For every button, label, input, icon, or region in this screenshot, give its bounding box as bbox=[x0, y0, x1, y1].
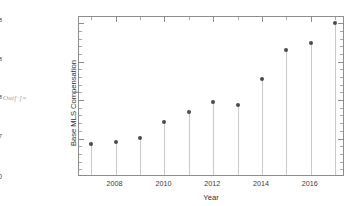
stem-line bbox=[213, 102, 214, 175]
plot-area bbox=[79, 17, 343, 175]
out-prompt-label: Out[·]= bbox=[3, 94, 27, 102]
x-tick-minor-top bbox=[189, 17, 190, 20]
y-tick-major bbox=[79, 62, 84, 63]
stem-line bbox=[335, 23, 336, 175]
y-tick-minor-right bbox=[340, 123, 343, 124]
y-tick-minor bbox=[79, 146, 82, 147]
y-tick-major-right bbox=[338, 23, 343, 24]
y-tick-minor-right bbox=[340, 31, 343, 32]
y-tick-minor-right bbox=[340, 39, 343, 40]
data-point[interactable] bbox=[162, 120, 166, 124]
y-tick-minor bbox=[79, 169, 82, 170]
y-tick-major bbox=[79, 100, 84, 101]
stem-line bbox=[262, 79, 263, 175]
y-tick-minor bbox=[79, 69, 82, 70]
y-tick-minor-right bbox=[340, 92, 343, 93]
data-point[interactable] bbox=[187, 110, 191, 114]
data-point[interactable] bbox=[333, 21, 337, 25]
data-point[interactable] bbox=[114, 140, 118, 144]
x-tick-label: 2012 bbox=[204, 179, 220, 188]
x-tick-major-top bbox=[213, 17, 214, 22]
y-tick-minor bbox=[79, 39, 82, 40]
notebook-output-cell: Out[·]= Base MLS Compensation 05.0 × 107… bbox=[0, 0, 351, 206]
y-tick-minor bbox=[79, 46, 82, 47]
y-tick-label: 2.0 × 108 bbox=[0, 17, 2, 27]
y-tick-minor bbox=[79, 92, 82, 93]
stem-line bbox=[164, 122, 165, 175]
y-tick-minor-right bbox=[340, 162, 343, 163]
stem-line bbox=[189, 112, 190, 175]
stem-line bbox=[140, 138, 141, 175]
stem-line bbox=[311, 43, 312, 175]
y-tick-minor bbox=[79, 162, 82, 163]
y-tick-major-right bbox=[338, 62, 343, 63]
stem-line bbox=[116, 142, 117, 175]
x-tick-label: 2010 bbox=[155, 179, 171, 188]
x-tick-major-top bbox=[164, 17, 165, 22]
data-point[interactable] bbox=[284, 48, 288, 52]
y-tick-minor-right bbox=[340, 69, 343, 70]
stem-line bbox=[238, 105, 239, 175]
x-tick-major-top bbox=[311, 17, 312, 22]
data-point[interactable] bbox=[89, 142, 93, 146]
data-point[interactable] bbox=[309, 41, 313, 45]
y-tick-label: 1.5 × 108 bbox=[0, 55, 2, 65]
plot-frame bbox=[78, 16, 344, 176]
y-tick-minor-right bbox=[340, 54, 343, 55]
x-tick-label: 2014 bbox=[253, 179, 269, 188]
x-tick-minor-top bbox=[91, 17, 92, 20]
y-axis-title: Base MLS Compensation bbox=[69, 60, 78, 146]
y-tick-minor-right bbox=[340, 154, 343, 155]
y-tick-minor bbox=[79, 31, 82, 32]
x-tick-minor-top bbox=[238, 17, 239, 20]
x-tick-major-top bbox=[116, 17, 117, 22]
y-tick-minor-right bbox=[340, 85, 343, 86]
stem-line bbox=[286, 50, 287, 175]
x-tick-label: 2008 bbox=[107, 179, 123, 188]
x-tick-label: 2016 bbox=[302, 179, 318, 188]
y-tick-minor bbox=[79, 108, 82, 109]
y-tick-label: 0 bbox=[0, 172, 2, 181]
y-tick-minor-right bbox=[340, 77, 343, 78]
y-tick-minor-right bbox=[340, 131, 343, 132]
x-tick-minor-top bbox=[335, 17, 336, 20]
x-tick-minor-top bbox=[286, 17, 287, 20]
data-point[interactable] bbox=[138, 136, 142, 140]
y-tick-minor bbox=[79, 154, 82, 155]
y-tick-major bbox=[79, 23, 84, 24]
y-tick-minor bbox=[79, 115, 82, 116]
x-axis-title: Year bbox=[203, 193, 218, 202]
y-tick-label: 5.0 × 107 bbox=[0, 132, 2, 142]
data-point[interactable] bbox=[260, 77, 264, 81]
y-tick-minor bbox=[79, 85, 82, 86]
stem-line bbox=[91, 144, 92, 175]
y-tick-minor bbox=[79, 77, 82, 78]
data-point[interactable] bbox=[211, 100, 215, 104]
y-tick-minor-right bbox=[340, 146, 343, 147]
y-tick-label: 1.0 × 108 bbox=[0, 94, 2, 104]
y-tick-major-right bbox=[338, 139, 343, 140]
y-tick-major bbox=[79, 139, 84, 140]
y-tick-minor bbox=[79, 123, 82, 124]
data-point[interactable] bbox=[236, 103, 240, 107]
y-tick-minor bbox=[79, 131, 82, 132]
y-tick-minor-right bbox=[340, 115, 343, 116]
y-tick-minor-right bbox=[340, 169, 343, 170]
y-tick-major-right bbox=[338, 100, 343, 101]
x-tick-major-top bbox=[262, 17, 263, 22]
x-tick-minor-top bbox=[140, 17, 141, 20]
y-tick-minor-right bbox=[340, 108, 343, 109]
y-tick-minor bbox=[79, 54, 82, 55]
y-tick-minor-right bbox=[340, 46, 343, 47]
